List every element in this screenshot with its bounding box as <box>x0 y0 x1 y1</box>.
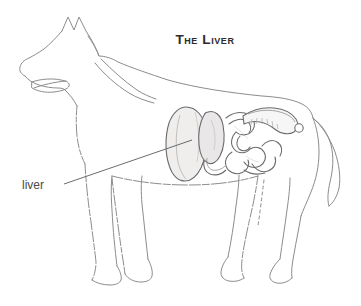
figure-title: The Liver <box>175 32 234 47</box>
organ-stomach[interactable] <box>199 112 224 164</box>
organ-large-intestine[interactable] <box>243 108 298 134</box>
stomach-body <box>199 112 224 164</box>
dog-hindquarter-contour <box>301 118 319 216</box>
dog-chest-contour <box>76 106 85 164</box>
dog-hind-leg-far-front <box>280 178 290 259</box>
rectum-opening <box>295 124 303 132</box>
dog-front-leg-far <box>112 178 125 274</box>
dog-front-paw-near <box>92 266 121 285</box>
dog-jaw-contour <box>25 76 66 91</box>
dog-front-leg-near <box>85 164 96 280</box>
liver-label: liver <box>22 178 44 192</box>
digestive-organ-group <box>166 107 303 181</box>
dog-hind-leg-near <box>242 176 258 278</box>
dog-anatomy-illustration: The Liver liver <box>0 0 361 306</box>
dog-neck-underline <box>66 91 77 106</box>
colon-body <box>243 108 298 134</box>
dog-hind-paw-near <box>221 257 244 281</box>
dog-front-leg-far-back <box>141 176 148 259</box>
small-intestine-coil-4 <box>237 136 250 151</box>
dog-hind-paw-far <box>270 259 292 283</box>
dog-shoulder-line-2 <box>95 63 154 103</box>
dog-face-contour <box>20 31 62 76</box>
dog-hind-leg-near-front <box>228 175 239 257</box>
dog-front-leg-near-back <box>111 176 117 266</box>
dog-stifle-crease <box>258 180 264 226</box>
small-intestine-coil-7 <box>252 157 276 172</box>
liver-anatomy-figure: The Liver liver <box>0 0 361 306</box>
dog-ear-inner <box>88 36 99 56</box>
dog-front-paw-far <box>125 259 152 282</box>
dog-hind-leg-far <box>292 216 301 278</box>
organ-rectum-terminus[interactable] <box>295 124 303 132</box>
mesentery-faint-lines <box>234 126 259 162</box>
